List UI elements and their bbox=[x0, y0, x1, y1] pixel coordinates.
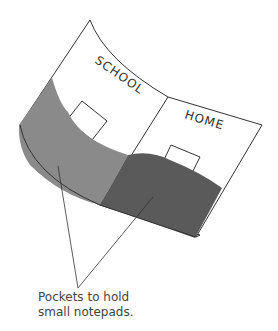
caption-line-2: small notepads. bbox=[38, 305, 133, 320]
caption-line-1: Pockets to hold bbox=[38, 290, 133, 305]
caption: Pockets to hold small notepads. bbox=[38, 290, 133, 320]
folder-diagram: SCHOOL HOME bbox=[0, 0, 278, 331]
